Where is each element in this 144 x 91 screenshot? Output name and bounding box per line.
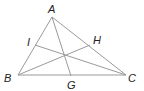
diagram-canvas: A B C G H I bbox=[0, 0, 144, 91]
segment-AG bbox=[52, 17, 71, 76]
label-B: B bbox=[4, 72, 11, 84]
label-C: C bbox=[128, 72, 136, 84]
triangle-diagram: A B C G H I bbox=[0, 0, 144, 91]
label-I: I bbox=[27, 36, 30, 48]
label-A: A bbox=[47, 3, 55, 15]
segment-CA bbox=[52, 17, 126, 75]
label-G: G bbox=[67, 79, 76, 91]
segments bbox=[18, 17, 126, 76]
label-H: H bbox=[93, 34, 101, 46]
labels: A B C G H I bbox=[4, 3, 136, 91]
segment-AB bbox=[18, 17, 52, 75]
